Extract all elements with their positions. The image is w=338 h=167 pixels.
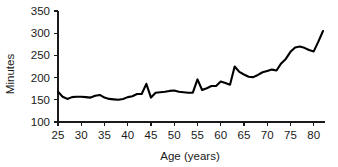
x-axis-title: Age (years)	[160, 150, 220, 162]
y-axis-tick-labels: 100150200250300350	[31, 5, 50, 128]
x-axis-tick-label: 25	[52, 129, 65, 141]
x-axis-tick-label: 65	[238, 129, 251, 141]
x-axis-tick-label: 70	[261, 129, 274, 141]
x-axis-tick-label: 45	[145, 129, 158, 141]
x-axis-tick-label: 75	[284, 129, 297, 141]
y-axis-tick-label: 300	[31, 27, 50, 39]
y-axis-title: Minutes	[4, 54, 16, 95]
y-axis-tick-label: 150	[31, 94, 50, 106]
x-axis-tick-label: 35	[98, 129, 111, 141]
axis-lines	[58, 11, 325, 122]
chart-figure: 100150200250300350 253035404550556065707…	[0, 0, 338, 167]
y-axis-tick-label: 350	[31, 5, 50, 17]
y-axis-tick-label: 250	[31, 49, 50, 61]
data-series-line	[58, 31, 323, 100]
x-axis-tick-label: 40	[121, 129, 134, 141]
line-chart: 100150200250300350 253035404550556065707…	[0, 0, 338, 167]
y-axis-tick-group	[54, 11, 58, 122]
x-axis-tick-labels: 253035404550556065707580	[52, 129, 320, 141]
x-axis-tick-label: 80	[307, 129, 320, 141]
y-axis-tick-label: 200	[31, 72, 50, 84]
x-axis-tick-group	[58, 122, 314, 126]
x-axis-tick-label: 30	[75, 129, 88, 141]
x-axis-tick-label: 60	[214, 129, 227, 141]
x-axis-tick-label: 50	[168, 129, 181, 141]
x-axis-tick-label: 55	[191, 129, 204, 141]
y-axis-tick-label: 100	[31, 116, 50, 128]
